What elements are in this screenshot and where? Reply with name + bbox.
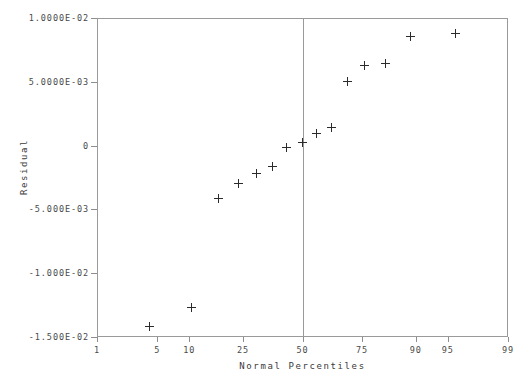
x-axis-tick-label: 5 xyxy=(154,345,160,355)
y-axis-tick xyxy=(91,18,97,19)
data-point xyxy=(214,194,223,203)
x-axis-tick xyxy=(416,337,417,342)
data-point xyxy=(298,138,307,147)
x-axis-tick xyxy=(243,337,244,342)
x-axis-tick-label: 75 xyxy=(356,345,368,355)
y-axis-tick-label: 5.0000E-03 xyxy=(29,77,89,87)
x-axis-tick xyxy=(97,337,98,342)
x-axis-tick xyxy=(362,337,363,342)
x-axis-tick-label: 50 xyxy=(296,345,308,355)
y-axis-tick-label: -1.000E-02 xyxy=(29,268,89,278)
y-axis-tick-label: 1.0000E-02 xyxy=(29,13,89,23)
chart-root: 1.0000E-025.0000E-030-5.000E-03-1.000E-0… xyxy=(0,0,526,383)
data-point xyxy=(187,303,196,312)
x-axis-tick-labels: 1510255075909599 xyxy=(97,345,508,359)
median-reference-line xyxy=(303,18,304,337)
x-axis-tick xyxy=(303,337,304,342)
x-axis-tick xyxy=(157,337,158,342)
x-axis-tick xyxy=(189,337,190,342)
data-point xyxy=(312,129,321,138)
data-point xyxy=(381,59,390,68)
data-point xyxy=(451,29,460,38)
data-point xyxy=(234,179,243,188)
y-axis-tick-label: -1.500E-02 xyxy=(29,332,89,342)
y-axis-tick-label: -5.000E-03 xyxy=(29,204,89,214)
x-axis-tick-label: 99 xyxy=(502,345,514,355)
y-axis-tick xyxy=(91,209,97,210)
x-axis-tick-label: 1 xyxy=(94,345,100,355)
y-axis-tick-labels: 1.0000E-025.0000E-030-5.000E-03-1.000E-0… xyxy=(0,18,89,337)
plot-area xyxy=(97,18,508,337)
data-point xyxy=(343,77,352,86)
y-axis-tick xyxy=(91,273,97,274)
data-point xyxy=(252,169,261,178)
y-axis-tick xyxy=(91,146,97,147)
y-axis-title: Residual xyxy=(19,107,29,227)
data-point xyxy=(327,123,336,132)
x-axis-title: Normal Percentiles xyxy=(97,361,508,371)
data-point xyxy=(145,322,154,331)
x-axis-tick xyxy=(448,337,449,342)
x-axis-tick-label: 10 xyxy=(183,345,195,355)
data-point xyxy=(360,61,369,70)
y-axis-tick xyxy=(91,82,97,83)
data-point xyxy=(406,32,415,41)
data-point xyxy=(282,143,291,152)
x-axis-tick-label: 90 xyxy=(410,345,422,355)
x-axis-tick-label: 95 xyxy=(442,345,454,355)
x-axis-tick-label: 25 xyxy=(237,345,249,355)
data-point xyxy=(268,162,277,171)
x-axis-tick xyxy=(508,337,509,342)
y-axis-tick-label: 0 xyxy=(83,141,89,151)
